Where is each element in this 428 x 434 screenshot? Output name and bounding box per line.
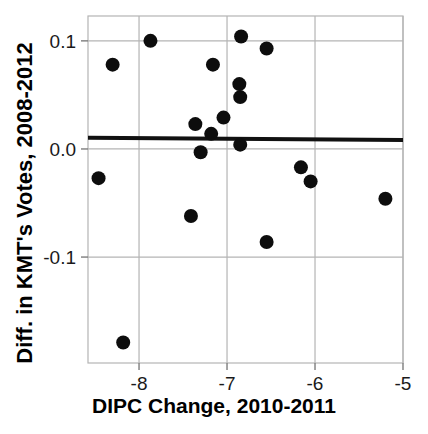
plot-canvas: -8-7-6-50.10.0-0.1: [0, 0, 428, 434]
x-axis-label: DIPC Change, 2010-2011: [0, 394, 428, 418]
x-tick-label-3: -5: [395, 373, 412, 394]
data-point: [378, 192, 392, 206]
data-point: [233, 90, 247, 104]
grid-lines: [88, 16, 403, 363]
data-point: [204, 127, 218, 141]
x-tick-label-1: -7: [219, 373, 236, 394]
axes-frame: [88, 16, 403, 363]
data-point: [234, 30, 248, 44]
x-tick-label-2: -6: [307, 373, 324, 394]
scatter-plot-figure: -8-7-6-50.10.0-0.1 Diff. in KMT's Votes,…: [0, 0, 428, 434]
data-point: [232, 77, 246, 91]
data-point: [217, 111, 231, 125]
data-point: [194, 145, 208, 159]
data-point: [92, 171, 106, 185]
y-tick-label-2: -0.1: [43, 247, 76, 268]
data-points: [92, 30, 393, 350]
data-point: [294, 160, 308, 174]
data-point: [304, 174, 318, 188]
regression-line: [88, 138, 403, 140]
data-point: [188, 117, 202, 131]
data-point: [106, 58, 120, 72]
data-point: [206, 58, 220, 72]
data-point: [143, 34, 157, 48]
y-axis-label: Diff. in KMT's Votes, 2008-2012: [12, 28, 38, 378]
fit-line: [88, 138, 403, 140]
plot-frame: [88, 16, 403, 363]
data-point: [116, 335, 130, 349]
data-point: [184, 209, 198, 223]
y-tick-label-0: 0.1: [50, 31, 76, 52]
data-point: [260, 235, 274, 249]
data-point: [260, 41, 274, 55]
x-tick-label-0: -8: [131, 373, 148, 394]
y-tick-label-1: 0.0: [50, 139, 76, 160]
data-point: [233, 138, 247, 152]
